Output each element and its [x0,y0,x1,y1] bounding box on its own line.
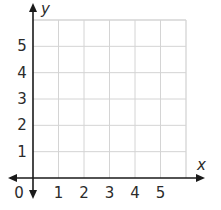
x-tick-labels: 12345 [54,184,166,202]
x-axis-label: x [196,156,206,174]
y-axis-down-arrow-icon [29,190,37,199]
origin-label: 0 [14,184,24,202]
x-axis-right-arrow-icon [196,174,205,182]
coordinate-grid: x y 0 12345 12345 [0,0,221,210]
y-tick-label: 4 [17,64,27,82]
y-tick-label: 1 [17,143,27,161]
y-axis-label: y [40,0,51,18]
grid-lines [33,20,186,178]
x-tick-label: 4 [130,184,140,202]
x-tick-label: 5 [156,184,166,202]
y-tick-label: 3 [17,90,27,108]
x-tick-label: 2 [79,184,89,202]
y-axis-up-arrow-icon [29,3,37,12]
y-tick-label: 5 [17,37,27,55]
y-tick-labels: 12345 [17,37,27,160]
y-tick-label: 2 [17,116,27,134]
x-tick-label: 3 [105,184,115,202]
x-tick-label: 1 [54,184,64,202]
axes [8,3,205,199]
x-axis-left-arrow-icon [8,174,17,182]
